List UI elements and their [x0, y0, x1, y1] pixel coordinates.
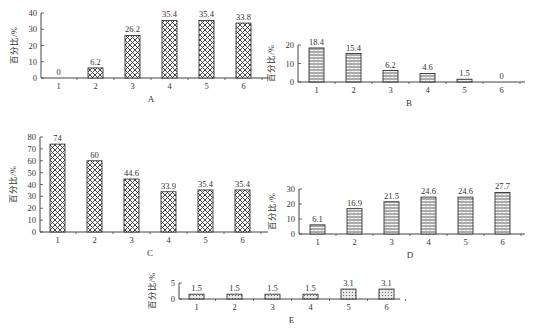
y-tick-label: 0	[33, 73, 37, 83]
x-tick-label: 3	[270, 302, 274, 312]
bar-value-label: 24.6	[421, 186, 436, 196]
panel-label: B	[406, 98, 412, 108]
bar-value-label: 44.6	[124, 168, 139, 178]
bar	[235, 190, 250, 232]
y-tick-label: 60	[28, 156, 37, 166]
x-tick-label: 3	[129, 235, 133, 245]
y-tick-label: 30	[28, 191, 37, 201]
bar	[50, 144, 65, 232]
x-tick-label: 6	[384, 302, 388, 312]
bar-value-label: 6.2	[90, 57, 101, 67]
y-tick-label: 20	[29, 41, 38, 51]
x-tick-label: 4	[167, 81, 172, 91]
y-tick-label: 40	[29, 8, 38, 18]
x-tick-label: 1	[56, 81, 60, 91]
bar-value-label: 6.1	[312, 214, 323, 224]
y-tick-label: 0	[171, 294, 175, 304]
bar-value-label: 1.5	[229, 283, 240, 293]
chart-panel-c: 01020304050607080百分比/%74160244.6333.9435…	[8, 132, 268, 258]
bar	[458, 197, 473, 234]
y-tick-label: 10	[29, 57, 38, 67]
x-tick-label: 3	[130, 81, 134, 91]
x-tick-label: 1	[194, 302, 198, 312]
x-tick-label: 4	[425, 85, 430, 95]
bar-value-label: 1.5	[267, 283, 278, 293]
chart-panel-b: 01020百分比/%18.4115.426.234.641.5506B	[266, 37, 525, 108]
y-tick-label: 10	[28, 215, 37, 225]
bar-value-label: 16.9	[347, 198, 362, 208]
y-tick-label: 30	[287, 184, 296, 194]
x-tick-label: 6	[241, 81, 245, 91]
x-tick-label: 2	[351, 85, 355, 95]
figure-panels: 010203040百分比/%016.2226.2335.4435.4533.86…	[0, 0, 538, 335]
bar-value-label: 18.4	[309, 37, 325, 47]
bar-value-label: 35.4	[198, 179, 214, 189]
bar	[303, 294, 318, 299]
bar	[341, 289, 356, 299]
bar	[236, 23, 251, 78]
y-tick-label: 10	[287, 214, 296, 224]
bar-value-label: 24.6	[458, 186, 473, 196]
y-axis-label: 百分比/%	[8, 166, 18, 202]
y-tick-label: 70	[28, 144, 37, 154]
x-tick-label: 3	[389, 237, 393, 247]
bar	[310, 225, 325, 234]
bar	[309, 48, 324, 82]
x-tick-label: 1	[314, 85, 318, 95]
x-tick-label: 5	[463, 237, 467, 247]
chart-panel-e: 05百分比/%1.511.521.531.543.153.16E	[147, 273, 406, 325]
bar	[420, 73, 435, 82]
y-tick-label: 80	[28, 132, 37, 142]
x-tick-label: 5	[204, 81, 208, 91]
bar	[346, 54, 361, 82]
bar	[495, 192, 510, 234]
panel-label: D	[407, 250, 414, 260]
y-tick-label: 30	[29, 24, 38, 34]
bar-value-label: 35.4	[162, 9, 178, 19]
y-tick-label: 20	[28, 203, 37, 213]
x-tick-label: 1	[315, 237, 319, 247]
y-axis-label: 百分比/%	[267, 193, 277, 229]
bar-value-label: 15.4	[346, 43, 362, 53]
bar-value-label: 35.4	[199, 9, 215, 19]
x-tick-label: 2	[352, 237, 356, 247]
bar-value-label: 1.5	[191, 283, 202, 293]
y-tick-label: 10	[286, 59, 295, 69]
panel-label: C	[147, 248, 153, 258]
y-tick-label: 5	[171, 278, 175, 288]
panel-label: A	[148, 94, 155, 104]
chart-panel-a: 010203040百分比/%016.2226.2335.4435.4533.86…	[9, 8, 268, 104]
x-tick-label: 2	[93, 81, 97, 91]
bar	[88, 68, 103, 78]
y-axis-label: 百分比/%	[9, 27, 19, 63]
bar	[198, 190, 213, 232]
bar	[227, 294, 242, 299]
bar-value-label: 27.7	[495, 181, 510, 191]
bar-value-label: 60	[90, 150, 99, 160]
bar-value-label: 35.4	[235, 179, 251, 189]
bar	[189, 294, 204, 299]
y-axis-label: 百分比/%	[266, 45, 276, 81]
y-tick-label: 20	[287, 199, 296, 209]
bar	[384, 202, 399, 234]
x-tick-label: 5	[203, 235, 207, 245]
bar-value-label: 33.9	[161, 181, 176, 191]
y-tick-label: 20	[286, 40, 295, 50]
y-tick-label: 40	[28, 180, 37, 190]
chart-panel-d: 0102030百分比/%6.1116.9221.5324.6424.6527.7…	[267, 181, 525, 260]
bar-value-label: 3.1	[381, 278, 392, 288]
bar	[383, 71, 398, 82]
bar	[124, 179, 139, 232]
x-tick-label: 5	[346, 302, 350, 312]
x-tick-label: 2	[232, 302, 236, 312]
bar-value-label: 1.5	[305, 283, 316, 293]
bar-value-label: 33.8	[236, 12, 251, 22]
x-tick-label: 5	[462, 85, 466, 95]
bar-value-label: 0	[56, 67, 60, 77]
bar-value-label: 26.2	[125, 24, 140, 34]
x-tick-label: 4	[426, 237, 431, 247]
x-tick-label: 1	[55, 235, 59, 245]
bar	[87, 161, 102, 232]
x-tick-label: 4	[166, 235, 171, 245]
panel-label: E	[289, 315, 295, 325]
